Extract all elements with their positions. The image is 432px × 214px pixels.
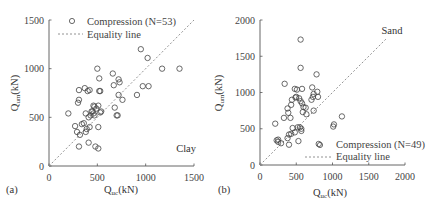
x-tick-label: 500 bbox=[289, 171, 304, 182]
data-point bbox=[138, 47, 143, 52]
x-tick-label: 1500 bbox=[359, 171, 379, 182]
panel-b-legend-line-label: Equality line bbox=[336, 151, 390, 162]
data-point bbox=[281, 115, 286, 120]
data-point bbox=[288, 115, 293, 120]
data-point bbox=[66, 111, 71, 116]
data-point bbox=[298, 65, 303, 70]
data-point bbox=[314, 72, 319, 77]
panel-a-xlabel: Quc(kN) bbox=[104, 184, 139, 197]
data-point bbox=[315, 94, 320, 99]
y-tick-label: 1500 bbox=[24, 15, 44, 26]
legend-marker-icon bbox=[317, 142, 322, 147]
panel-b-legend-marker-label: Compression (N=49) bbox=[336, 139, 426, 151]
x-tick-label: 0 bbox=[47, 172, 52, 183]
panel-b-label: (b) bbox=[218, 184, 231, 196]
panel-a-scatter-points bbox=[66, 47, 183, 152]
data-point bbox=[146, 83, 151, 88]
data-point bbox=[140, 83, 145, 88]
data-point bbox=[288, 102, 293, 107]
data-point bbox=[177, 66, 182, 71]
data-point bbox=[96, 124, 101, 129]
x-tick-label: 1000 bbox=[136, 172, 156, 183]
y-tick-label: 0 bbox=[39, 161, 44, 172]
data-point bbox=[286, 142, 291, 147]
x-tick-label: 500 bbox=[90, 172, 105, 183]
panel-b-annotation: Sand bbox=[382, 25, 404, 36]
data-point bbox=[81, 120, 86, 125]
data-point bbox=[134, 92, 139, 97]
data-point bbox=[87, 87, 92, 92]
data-point bbox=[311, 108, 316, 113]
data-point bbox=[76, 144, 81, 149]
y-tick-label: 500 bbox=[29, 112, 44, 123]
panel-a-annotation: Clay bbox=[176, 143, 197, 154]
y-tick-label: 2000 bbox=[235, 15, 255, 26]
data-point bbox=[145, 55, 150, 60]
y-tick-label: 0 bbox=[250, 160, 255, 171]
y-tick-label: 1500 bbox=[235, 51, 255, 62]
y-tick-label: 1000 bbox=[24, 63, 44, 74]
x-tick-label: 1000 bbox=[323, 171, 343, 182]
panel-a-ylabel: Qum(kN) bbox=[9, 74, 22, 111]
data-point bbox=[296, 138, 301, 143]
x-tick-label: 2000 bbox=[395, 171, 415, 182]
data-point bbox=[111, 83, 116, 88]
data-point bbox=[95, 66, 100, 71]
data-point bbox=[339, 114, 344, 119]
y-tick-label: 500 bbox=[240, 123, 255, 134]
panel-a-legend-marker-label: Compression (N=53) bbox=[87, 16, 177, 28]
data-point bbox=[76, 87, 81, 92]
panel-b-sand: 05001000150020000500100015002000 Sand Co… bbox=[213, 15, 426, 201]
data-point bbox=[298, 37, 303, 42]
panel-a-clay: 050010001500050010001500 Clay Compressio… bbox=[6, 15, 204, 198]
y-tick-label: 1000 bbox=[235, 87, 255, 98]
panel-a-equality-line bbox=[49, 20, 194, 166]
panel-b-ylabel: Qum(kN) bbox=[213, 74, 226, 111]
data-point bbox=[86, 140, 91, 145]
data-point bbox=[285, 135, 290, 140]
x-tick-label: 0 bbox=[258, 171, 263, 182]
data-point bbox=[97, 76, 102, 81]
panel-b-scatter-points bbox=[273, 37, 345, 148]
data-point bbox=[110, 71, 115, 76]
data-point bbox=[299, 86, 304, 91]
data-point bbox=[72, 123, 77, 128]
data-point bbox=[282, 81, 287, 86]
figure: 050010001500050010001500 Clay Compressio… bbox=[0, 0, 432, 214]
data-point bbox=[112, 105, 117, 110]
data-point bbox=[120, 97, 125, 102]
panel-a-legend-line-label: Equality line bbox=[87, 29, 141, 40]
data-point bbox=[273, 121, 278, 126]
x-tick-label: 1500 bbox=[184, 172, 204, 183]
legend-marker-icon bbox=[69, 18, 74, 23]
panel-a-label: (a) bbox=[6, 184, 18, 196]
panel-b-xlabel: Quc(kN) bbox=[313, 187, 348, 200]
data-point bbox=[310, 85, 315, 90]
data-point bbox=[159, 66, 164, 71]
data-point bbox=[116, 92, 121, 97]
